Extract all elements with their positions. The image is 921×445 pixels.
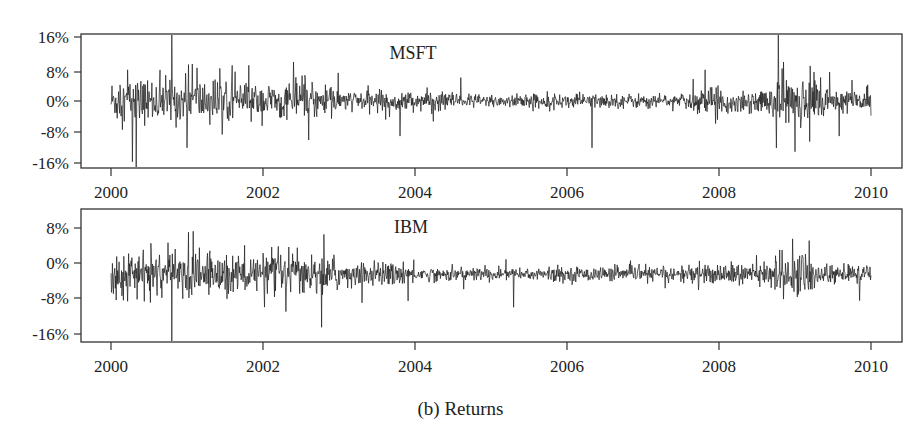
x-tick-label: 2002 [246, 183, 280, 202]
ibm-x-axis: 200020022004200620082010 [94, 342, 888, 376]
y-tick-label: -16% [32, 154, 69, 173]
y-tick-label: 16% [38, 28, 69, 47]
msft-y-axis: 16%8%0%-8%-16% [32, 28, 81, 173]
x-tick-label: 2006 [550, 183, 584, 202]
figure-caption: (b) Returns [0, 398, 921, 420]
x-tick-label: 2010 [854, 357, 888, 376]
msft-x-axis: 200020022004200620082010 [94, 168, 888, 202]
y-tick-label: 8% [46, 219, 69, 238]
y-tick-label: -8% [41, 123, 69, 142]
msft-panel-title: MSFT [389, 43, 436, 63]
y-tick-label: -8% [41, 289, 69, 308]
returns-figure: 16%8%0%-8%-16% 200020022004200620082010 … [0, 0, 921, 445]
ibm-returns-line [111, 231, 871, 341]
x-tick-label: 2002 [246, 357, 280, 376]
y-tick-label: 0% [46, 92, 69, 111]
y-tick-label: 0% [46, 254, 69, 273]
x-tick-label: 2004 [398, 183, 433, 202]
y-tick-label: -16% [32, 325, 69, 344]
ibm-y-axis: 8%0%-8%-16% [32, 219, 81, 344]
ibm-panel: 8%0%-8%-16% 200020022004200620082010 IBM [32, 209, 902, 376]
x-tick-label: 2006 [550, 357, 584, 376]
msft-panel: 16%8%0%-8%-16% 200020022004200620082010 … [32, 28, 902, 202]
x-tick-label: 2010 [854, 183, 888, 202]
x-tick-label: 2000 [94, 357, 128, 376]
msft-returns-line [111, 35, 871, 167]
x-tick-label: 2000 [94, 183, 128, 202]
y-tick-label: 8% [46, 63, 69, 82]
x-tick-label: 2004 [398, 357, 433, 376]
x-tick-label: 2008 [702, 357, 736, 376]
x-tick-label: 2008 [702, 183, 736, 202]
ibm-panel-title: IBM [394, 217, 428, 237]
